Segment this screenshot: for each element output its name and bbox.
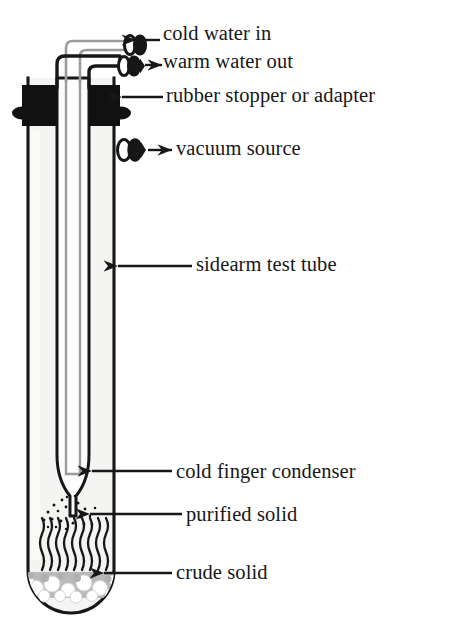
cold-water-fitting <box>125 36 147 55</box>
tube-highlight <box>31 130 40 560</box>
stopper-right-body <box>89 85 120 126</box>
label-cold-water-in: cold water in <box>163 22 271 45</box>
cold-finger-jacket <box>57 78 89 516</box>
label-crude-solid: crude solid <box>176 561 268 584</box>
label-cold-finger-condenser: cold finger condenser <box>176 460 356 483</box>
warm-water-fitting <box>119 57 146 76</box>
stopper-left-flange <box>12 107 32 120</box>
label-sidearm-test-tube: sidearm test tube <box>196 253 337 276</box>
cold-water-inlet-tube <box>66 41 126 82</box>
label-vacuum-source: vacuum source <box>176 137 301 160</box>
stopper-left-body <box>22 85 57 126</box>
vacuum-sidearm <box>118 140 147 161</box>
label-warm-water-out: warm water out <box>163 50 293 73</box>
label-purified-solid: purified solid <box>186 503 297 526</box>
cold-finger-condenser <box>57 78 89 516</box>
stopper-right-flange <box>111 107 131 120</box>
label-rubber-stopper: rubber stopper or adapter <box>166 84 375 107</box>
